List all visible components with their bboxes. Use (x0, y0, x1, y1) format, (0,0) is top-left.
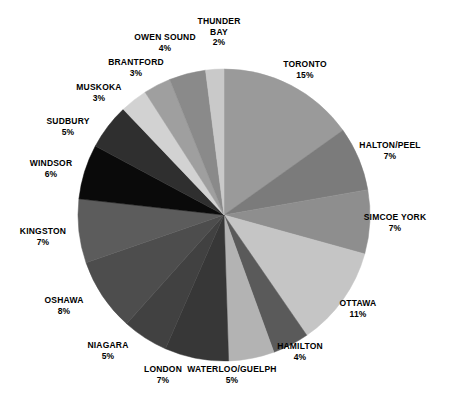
pie-slices-group (78, 69, 370, 361)
pie-chart-canvas (0, 0, 449, 402)
pie-chart: TORONTO15%HALTON/PEEL7%SIMCOE YORK7%OTTA… (0, 0, 449, 402)
